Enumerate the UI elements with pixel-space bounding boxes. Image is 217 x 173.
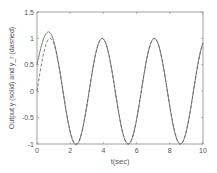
x-tick-label: 8 (168, 147, 172, 154)
y-tick-label: 1.5 (24, 9, 34, 16)
x-axis-label: t(sec) (111, 157, 130, 166)
y-tick-label: -1 (28, 141, 34, 148)
y-tick-label: 1 (30, 35, 34, 42)
x-tick-label: 4 (101, 147, 105, 154)
series-yr-dashed (37, 38, 203, 144)
y-tick-label: 0.5 (24, 61, 34, 68)
y-tick-label: -0.5 (22, 114, 34, 121)
x-tick-label: 6 (135, 147, 139, 154)
series-y-solid (37, 32, 203, 145)
x-tick-label: 2 (68, 147, 72, 154)
y-axis-label: Output y (solid) and y_r (dashed) (8, 27, 16, 129)
y-tick-label: 0 (30, 88, 34, 95)
x-tick-label: 0 (35, 147, 39, 154)
chart: 0246810-1-0.500.511.5t(sec)Output y (sol… (0, 0, 217, 173)
plot-frame (37, 12, 203, 144)
x-tick-label: 10 (199, 147, 207, 154)
